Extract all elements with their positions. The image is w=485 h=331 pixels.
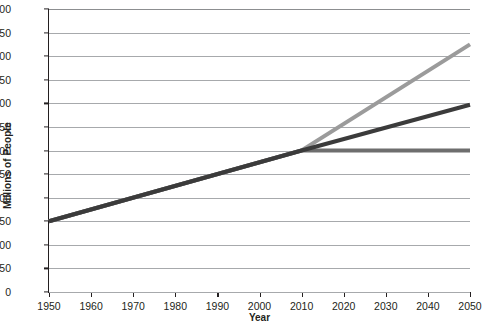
y-tick-label: 600 [0,3,11,15]
x-tick-label: 2050 [444,300,485,312]
gridline [49,292,470,293]
y-tick-label: 550 [0,27,11,39]
y-tick-label: 150 [0,215,11,227]
series-line [49,44,470,221]
plot-area [49,9,470,292]
series-line [49,105,470,222]
y-tick-label: 500 [0,50,11,62]
y-tick-label: 100 [0,239,11,251]
x-tick-mark [470,292,471,297]
y-tick-label: 50 [0,262,11,274]
y-tick-label: 300 [0,145,11,157]
y-tick-label: 350 [0,121,11,133]
line-chart: Millions of People 050100150200250300350… [0,0,485,331]
y-tick-label: 0 [0,286,11,298]
y-tick-label: 200 [0,192,11,204]
y-tick-label: 250 [0,168,11,180]
y-tick-label: 450 [0,74,11,86]
x-axis-title: Year [49,312,470,323]
y-tick-label: 400 [0,97,11,109]
series-layer [49,9,470,292]
